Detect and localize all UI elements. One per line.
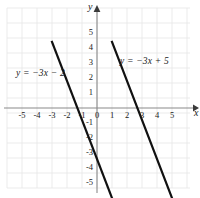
y-axis-label: y bbox=[88, 1, 92, 12]
y-tick-label: -2 bbox=[75, 132, 93, 142]
coordinate-plane bbox=[0, 0, 200, 198]
y-tick-label: -5 bbox=[75, 177, 93, 187]
graph-figure: y x y = −3x − 2 y = −3x + 5 -5-4-3-2-101… bbox=[0, 0, 200, 198]
x-tick-label: 5 bbox=[162, 110, 182, 120]
y-tick-label: 4 bbox=[75, 42, 93, 52]
y-tick-label: 3 bbox=[75, 57, 93, 67]
y-tick-label: -1 bbox=[75, 117, 93, 127]
y-tick-label: 5 bbox=[75, 27, 93, 37]
y-tick-label: -3 bbox=[75, 147, 93, 157]
y-axis-arrow bbox=[94, 5, 101, 12]
y-tick-label: -4 bbox=[75, 162, 93, 172]
x-axis-label: x bbox=[194, 107, 198, 118]
equation-label-left: y = −3x − 2 bbox=[16, 68, 65, 78]
y-tick-label: 2 bbox=[75, 72, 93, 82]
y-tick-label: 1 bbox=[75, 87, 93, 97]
equation-label-right: y = −3x + 5 bbox=[120, 56, 169, 66]
